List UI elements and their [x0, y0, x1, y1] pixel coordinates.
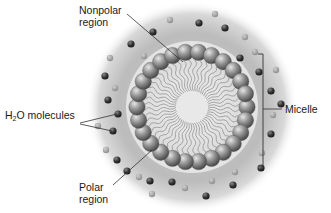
water-molecule	[149, 191, 155, 197]
water-molecule	[273, 67, 279, 73]
water-molecule	[209, 178, 215, 184]
polar-region-label: Polar region	[79, 181, 108, 205]
water-molecule	[182, 185, 188, 191]
water-molecule	[267, 87, 274, 94]
water-molecule	[101, 72, 108, 79]
water-molecule	[202, 192, 209, 199]
water-molecule	[232, 169, 238, 175]
water-molecule	[252, 49, 258, 55]
water-molecule	[168, 178, 175, 185]
polar-head	[237, 86, 253, 102]
water-molecule	[270, 112, 276, 118]
water-molecule	[136, 174, 142, 180]
micelle-illustration	[0, 0, 331, 213]
water-molecule	[103, 147, 109, 153]
micelle-diagram: Nonpolar region H2O molecules Polar regi…	[0, 0, 331, 213]
water-molecule	[212, 11, 218, 17]
water-molecule	[242, 34, 248, 40]
nonpolar-region-label: Nonpolar region	[79, 4, 122, 28]
water-molecule	[257, 164, 264, 171]
water-label-prefix: H	[5, 109, 13, 121]
water-molecule	[107, 55, 113, 61]
polar-label-line1: Polar	[79, 181, 108, 193]
water-molecules-label: H2O molecules	[5, 109, 75, 125]
water-label-suffix: O molecules	[17, 109, 75, 121]
water-molecule	[146, 177, 153, 184]
water-molecule	[236, 54, 243, 61]
water-molecule	[113, 156, 120, 163]
water-molecule	[255, 68, 262, 75]
water-molecule	[259, 150, 265, 156]
water-molecule	[229, 181, 236, 188]
nonpolar-label-line1: Nonpolar	[79, 4, 122, 16]
water-molecule	[221, 24, 228, 31]
micelle-label: Micelle	[285, 103, 318, 115]
water-molecule	[112, 85, 118, 91]
water-molecule	[123, 167, 130, 174]
water-molecule	[104, 96, 111, 103]
water-molecule	[167, 17, 173, 23]
water-molecule	[267, 130, 274, 137]
nonpolar-label-line2: region	[79, 16, 122, 28]
polar-label-line2: region	[79, 193, 108, 205]
water-molecule	[195, 19, 202, 26]
core-center	[177, 92, 207, 122]
water-molecule	[277, 100, 284, 107]
water-molecule	[141, 53, 147, 59]
water-molecule	[127, 40, 134, 47]
